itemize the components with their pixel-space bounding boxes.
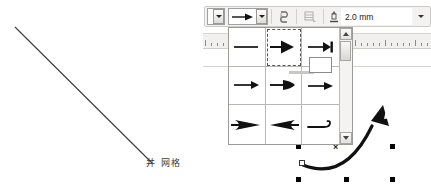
selection-handle[interactable] bbox=[344, 177, 349, 182]
arrowhead-triangle-icon bbox=[268, 38, 298, 56]
scrollbar-thumb[interactable] bbox=[340, 41, 351, 61]
arrow-style-dropdown-button[interactable] bbox=[256, 9, 267, 24]
drag-cursor-icon bbox=[299, 160, 305, 166]
chevron-down-icon bbox=[259, 15, 265, 18]
shadow-button[interactable] bbox=[275, 8, 293, 25]
selection-handle[interactable] bbox=[296, 177, 301, 182]
arrowhead-grid[interactable] bbox=[229, 28, 339, 144]
arrowhead-none-cell[interactable] bbox=[229, 28, 266, 67]
crop-button bbox=[300, 8, 320, 25]
toolbar-separator bbox=[296, 9, 297, 24]
arrowhead-thin-icon bbox=[232, 77, 262, 93]
arrowhead-hook-cell[interactable] bbox=[302, 105, 339, 144]
scroll-down-button[interactable] bbox=[340, 132, 352, 144]
arrowhead-preview-tooltip bbox=[309, 57, 332, 73]
arrowhead-thin-cell[interactable] bbox=[229, 67, 266, 106]
chevron-down-icon bbox=[343, 136, 349, 140]
arrow-preview-icon bbox=[231, 12, 255, 22]
arrowhead-concave-right-cell[interactable] bbox=[229, 105, 266, 144]
line-style-combo[interactable] bbox=[207, 8, 225, 25]
arrowhead-small-icon bbox=[306, 77, 336, 93]
arrowhead-concave-left-icon bbox=[266, 117, 300, 133]
line-properties-toolbar[interactable]: 2.0 mm bbox=[204, 6, 431, 27]
arrowhead-dropdown-panel[interactable] bbox=[228, 27, 353, 145]
chevron-up-icon bbox=[343, 32, 349, 36]
line-width-value: 2.0 mm bbox=[345, 12, 373, 22]
crop-icon bbox=[303, 10, 317, 24]
selection-handle[interactable] bbox=[390, 144, 395, 149]
arrowhead-none-icon bbox=[232, 39, 262, 55]
toolbar-separator bbox=[271, 9, 272, 24]
dropdown-scrollbar[interactable] bbox=[339, 28, 352, 144]
arrowhead-concave-right-icon bbox=[230, 117, 264, 133]
arrow-style-preview bbox=[229, 12, 256, 22]
selection-handle[interactable] bbox=[390, 177, 395, 182]
line-width-field[interactable]: 2.0 mm bbox=[341, 8, 412, 25]
chevron-down-icon bbox=[418, 15, 424, 18]
line-style-dropdown-button[interactable] bbox=[213, 9, 224, 24]
line-width-dropdown-button[interactable] bbox=[412, 15, 430, 18]
arrow-style-combo[interactable] bbox=[228, 8, 268, 25]
curved-arrow-shape[interactable] bbox=[0, 0, 431, 194]
scroll-up-button[interactable] bbox=[340, 28, 352, 40]
chevron-down-icon bbox=[216, 15, 222, 18]
shadow-icon bbox=[278, 10, 291, 24]
drawing-canvas[interactable]: 井网格 × bbox=[0, 0, 431, 194]
arrowhead-bar-icon bbox=[306, 39, 336, 55]
arrowhead-teardrop-icon bbox=[268, 77, 298, 93]
arrowhead-hook-icon bbox=[306, 117, 336, 133]
line-width-icon-button[interactable] bbox=[327, 8, 341, 25]
toolbar-separator bbox=[323, 9, 324, 24]
arrowhead-concave-left-cell[interactable] bbox=[266, 105, 303, 144]
arrowhead-notch bbox=[384, 110, 391, 119]
arrowhead-triangle-cell[interactable] bbox=[266, 28, 303, 67]
line-width-icon bbox=[329, 10, 339, 24]
scrollbar-track[interactable] bbox=[340, 40, 352, 132]
